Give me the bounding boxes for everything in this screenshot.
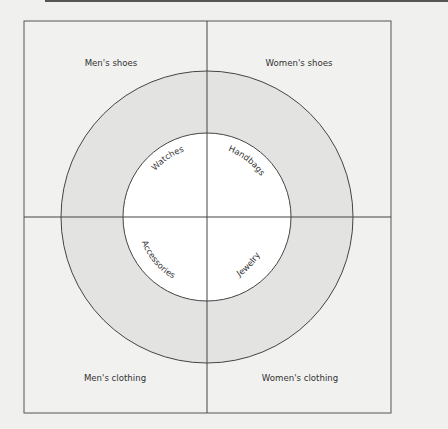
label-womens-shoes: Women's shoes (266, 58, 333, 68)
quadrant-diagram: Men's shoes Women's shoes Men's clothing… (0, 0, 448, 429)
label-mens-clothing: Men's clothing (84, 373, 146, 383)
label-mens-shoes: Men's shoes (85, 58, 138, 68)
label-womens-clothing: Women's clothing (262, 373, 338, 383)
